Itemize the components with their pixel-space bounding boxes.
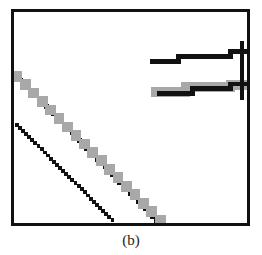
lower-step-black-run-0 xyxy=(157,91,193,96)
lower-step-black-rise-2 xyxy=(228,82,233,92)
series-lower-diagonal-black xyxy=(15,123,114,222)
upper-step-black-rise-2 xyxy=(228,49,233,59)
upper-step-black-rise-1 xyxy=(176,54,181,64)
lower-diagonal-black-block xyxy=(111,218,115,222)
plot-canvas xyxy=(14,12,247,223)
figure-caption: (b) xyxy=(0,230,262,250)
figure-root: (b) xyxy=(0,0,262,255)
upper-diagonal-gray-shadow-block xyxy=(155,215,166,223)
lower-step-black-run-1 xyxy=(192,86,230,91)
plot-frame xyxy=(11,9,250,226)
upper-step-black-run-1 xyxy=(179,54,232,59)
series-right-border-tick-vertical xyxy=(240,41,244,99)
upper-step-black-run-2 xyxy=(230,49,247,54)
upper-step-black-run-0 xyxy=(150,59,180,64)
right-border-tick-vertical-line xyxy=(240,41,244,99)
lower-step-black-run-2 xyxy=(230,82,247,87)
series-upper-step-black xyxy=(150,49,247,64)
lower-step-black-rise-1 xyxy=(190,86,195,96)
